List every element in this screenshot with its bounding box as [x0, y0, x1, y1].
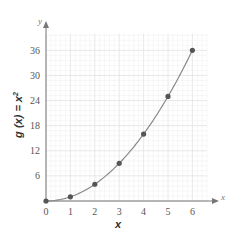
y-tick-label: 30 [30, 70, 40, 81]
y-axis-arrow-icon [43, 21, 49, 28]
x-axis-title: x [114, 218, 122, 230]
y-axis-title: g (x) = x2 [12, 92, 24, 139]
chart: 012345661218243036 x y x g (x) = x2 [0, 0, 238, 238]
data-point [43, 198, 48, 203]
y-axis-title-superscript: 2 [12, 92, 19, 97]
data-point [68, 194, 73, 199]
x-tick-label: 2 [92, 206, 97, 217]
x-axis-arrow-icon [212, 198, 219, 204]
data-point [165, 94, 170, 99]
x-axis-letter: x [220, 192, 225, 202]
y-tick-label: 6 [35, 170, 40, 181]
y-tick-label: 18 [30, 120, 40, 131]
data-point [141, 131, 146, 136]
x-tick-label: 0 [44, 206, 49, 217]
y-axis-title-main: g (x) = x [12, 95, 24, 139]
x-tick-label: 4 [141, 206, 146, 217]
x-tick-label: 1 [68, 206, 73, 217]
y-tick-label: 24 [30, 95, 40, 106]
x-tick-label: 5 [166, 206, 171, 217]
y-axis-letter: y [37, 16, 42, 26]
data-point [117, 161, 122, 166]
grid [46, 34, 207, 201]
x-tick-label: 6 [190, 206, 195, 217]
data-point [190, 48, 195, 53]
data-point [92, 182, 97, 187]
y-tick-label: 36 [30, 45, 40, 56]
x-tick-label: 3 [117, 206, 122, 217]
y-tick-label: 12 [30, 145, 40, 156]
